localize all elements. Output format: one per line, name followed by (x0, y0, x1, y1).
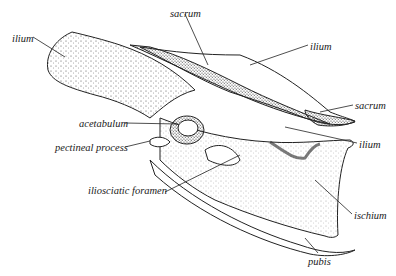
label-pubis: pubis (308, 257, 331, 268)
label-acetabulum: acetabulum (79, 119, 128, 130)
label-ilium-top-right: ilium (310, 42, 332, 53)
acetabulum-hole (178, 120, 198, 136)
label-iliosciatic-foramen: iliosciatic foramen (88, 186, 167, 197)
pelvis-drawing (0, 0, 396, 276)
label-ilium-left: ilium (12, 34, 34, 45)
label-ischium: ischium (354, 211, 387, 222)
label-pectineal-process: pectineal process (55, 143, 128, 154)
pelvis-diagram: ilium sacrum ilium sacrum acetabulum pec… (0, 0, 396, 276)
label-sacrum-right: sacrum (355, 101, 386, 112)
ilium-blade (47, 32, 195, 118)
label-sacrum-top: sacrum (170, 9, 201, 20)
label-ilium-right: ilium (359, 140, 381, 151)
